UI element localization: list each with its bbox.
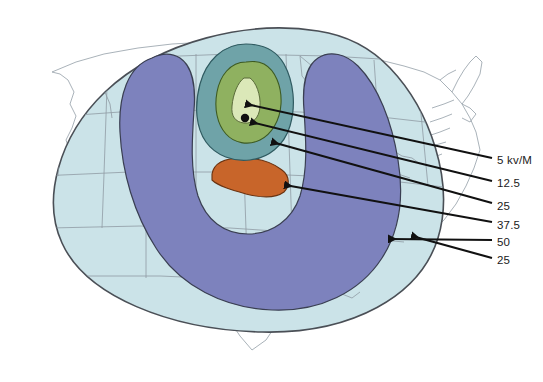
legend-label-2: 12.5: [497, 178, 520, 190]
contour-map-figure: [0, 0, 543, 382]
legend-label-6: 25: [497, 255, 510, 267]
figure-container: 5 kv/M12.52537.55025: [0, 0, 543, 382]
legend-label-5: 50: [497, 237, 510, 249]
leader-line-5: [389, 239, 492, 240]
legend-label-1: 5 kv/M: [497, 155, 532, 167]
legend-label-3: 25: [497, 201, 510, 213]
legend-label-4: 37.5: [497, 220, 520, 232]
ground-zero-marker: [241, 114, 249, 122]
